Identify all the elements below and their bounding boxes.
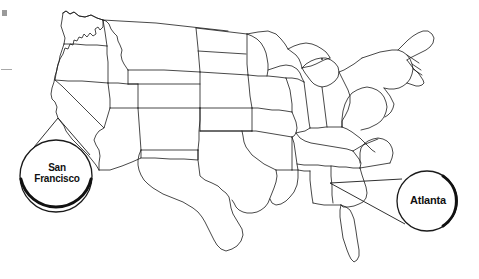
massachusetts-coast: [407, 60, 424, 86]
mississippi-louisiana-border: [310, 171, 313, 203]
north-dakota-north: [196, 28, 247, 34]
wisconsin-illinois-border: [286, 78, 304, 82]
atlanta-callout-circle[interactable]: [397, 171, 457, 231]
atl-leader-line-top: [330, 179, 402, 183]
michigan-upper-peninsula-north: [288, 43, 330, 58]
edge-marker-square: [2, 10, 7, 16]
atlanta-leader-cone: [330, 179, 405, 224]
northcarolina-southcarolina-border: [360, 163, 390, 168]
washington-west-coast: [61, 13, 65, 44]
south-dakota-nebraska-border: [200, 72, 248, 75]
mexico-border-arizona: [99, 150, 141, 170]
lake-marker-dot: [321, 58, 323, 60]
north-south-dakota-border: [198, 51, 246, 54]
illinois-south-tip: [296, 128, 310, 133]
arkansas-mississippi-border: [292, 137, 298, 170]
oregon-west-coast: [55, 44, 64, 80]
illinois-indiana-border: [304, 82, 310, 128]
us-state-outlines: [51, 11, 434, 262]
virginia-tennessee-border: [353, 139, 378, 151]
texas-louisiana-gulf: [232, 170, 277, 213]
san-francisco-callout-circle[interactable]: [20, 140, 92, 212]
us-map-svg: [0, 0, 479, 279]
missouri-iowa-border: [252, 108, 292, 112]
iowa-illinois-mississippi: [286, 78, 292, 112]
minnesota-wisconsin-border: [247, 34, 268, 76]
texas-oklahoma-red-river: [242, 131, 276, 170]
new-england-north: [398, 31, 434, 60]
mexico-border-newmexico: [141, 150, 198, 160]
washington-idaho-border: [103, 20, 107, 46]
map-figure: San Francisco Atlanta: [0, 0, 479, 279]
lake-superior-south: [288, 49, 302, 68]
california-southeast: [94, 128, 104, 170]
montana-dakota-border: [196, 28, 200, 72]
oregon-california-nevada-border: [55, 80, 108, 83]
washington-oregon-border: [64, 44, 107, 46]
michigan-lower-peninsula: [302, 58, 339, 87]
ohio-kentucky-border: [310, 127, 342, 128]
kentucky-tennessee-border: [296, 133, 353, 151]
indiana-ohio-border: [322, 87, 327, 127]
texas-outline: [138, 150, 243, 251]
newyork-outline: [362, 50, 413, 89]
dakota-minnesota-iowa-border: [247, 34, 248, 75]
lake-erie-north: [339, 58, 362, 72]
arizona-newmexico-border: [138, 108, 141, 150]
montana-wyoming-border: [128, 70, 200, 72]
oregon-idaho-border: [107, 46, 108, 83]
ohio-pennsylvania-westvirginia-border: [339, 72, 350, 127]
tennessee-south-border: [297, 164, 360, 168]
florida-peninsula: [340, 205, 359, 262]
minnesota-canada-border: [247, 31, 288, 49]
oklahoma-kansas-border: [252, 131, 292, 137]
louisiana-arkansas-north: [292, 170, 310, 171]
washington-north: [63, 11, 103, 20]
nevada-utah-border: [108, 83, 110, 108]
virginia-westvirginia-border: [342, 127, 375, 152]
california-nevada-diagonal: [55, 80, 110, 128]
michigan-upper-peninsula-south: [302, 58, 330, 68]
sf-circle-outline[interactable]: [20, 140, 92, 212]
edge-marker-dash: [1, 69, 12, 70]
atl-leader-line-bottom: [330, 183, 405, 224]
northcarolina-virginia-coast: [360, 138, 393, 163]
nebraska-iowa-missouri-border: [248, 75, 252, 108]
alabama-florida-gulf-border: [313, 203, 341, 205]
